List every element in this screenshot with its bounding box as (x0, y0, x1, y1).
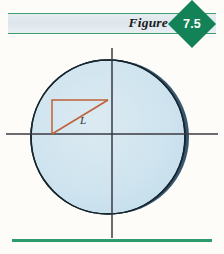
figure-baseline-rule (12, 239, 212, 242)
figure-panel: Figure 7.5 (0, 0, 224, 254)
length-label: L (79, 114, 86, 126)
circle-diagram: L (0, 0, 224, 254)
